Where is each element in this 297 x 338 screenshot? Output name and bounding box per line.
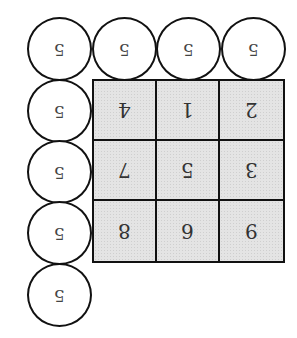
grid-cell: 6 bbox=[157, 201, 220, 261]
cell-value: 6 bbox=[181, 221, 194, 241]
circle-top-1: 5 bbox=[27, 17, 92, 81]
grid-cell: 8 bbox=[94, 201, 157, 261]
grid-cell: 3 bbox=[220, 141, 283, 201]
magic-square-diagram: 5 5 5 5 5 5 5 5 4 1 2 7 5 3 8 6 9 bbox=[0, 0, 297, 338]
grid-cell: 1 bbox=[157, 81, 220, 141]
cell-value: 7 bbox=[118, 160, 131, 180]
grid-cell: 5 bbox=[157, 141, 220, 201]
grid-cell: 4 bbox=[94, 81, 157, 141]
grid-cell: 7 bbox=[94, 141, 157, 201]
circle-value: 5 bbox=[54, 225, 65, 242]
circle-left-4: 5 bbox=[27, 263, 92, 327]
cell-value: 9 bbox=[245, 221, 258, 241]
circle-top-4: 5 bbox=[221, 17, 286, 81]
circle-value: 5 bbox=[248, 41, 259, 58]
circle-value: 5 bbox=[119, 41, 130, 58]
cell-value: 5 bbox=[181, 160, 194, 180]
cell-value: 8 bbox=[118, 221, 131, 241]
cell-value: 3 bbox=[245, 160, 258, 180]
circle-value: 5 bbox=[183, 41, 194, 58]
circle-value: 5 bbox=[54, 287, 65, 304]
cell-value: 2 bbox=[245, 100, 258, 120]
cell-value: 4 bbox=[118, 100, 131, 120]
grid-cell: 9 bbox=[220, 201, 283, 261]
circle-value: 5 bbox=[54, 41, 65, 58]
circle-top-3: 5 bbox=[156, 17, 221, 81]
circle-left-2: 5 bbox=[27, 140, 92, 204]
circle-value: 5 bbox=[54, 103, 65, 120]
circle-value: 5 bbox=[54, 164, 65, 181]
circle-left-1: 5 bbox=[27, 79, 92, 143]
circle-left-3: 5 bbox=[27, 201, 92, 265]
grid-cell: 2 bbox=[220, 81, 283, 141]
circle-top-2: 5 bbox=[92, 17, 157, 81]
cell-value: 1 bbox=[181, 100, 194, 120]
number-grid: 4 1 2 7 5 3 8 6 9 bbox=[92, 79, 285, 263]
